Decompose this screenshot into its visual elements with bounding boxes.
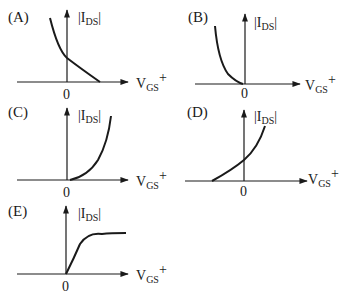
panel-a-label: (A) [8,9,29,26]
panel-e-y-label: |IDS| [78,206,101,223]
panel-b-label: (B) [188,9,208,26]
panel-d: (D) |IDS| VGS+ 0 [185,104,339,199]
panel-d-y-label: |IDS| [254,109,277,126]
panel-c-curve [70,116,111,180]
panel-d-origin-label: 0 [240,184,247,199]
panel-c-label: (C) [8,104,28,121]
panel-c-x-label: VGS+ [136,168,167,191]
panel-a-y-label: |IDS| [78,10,101,27]
panel-b-x-label: VGS+ [305,72,336,95]
panel-d-label: (D) [187,104,208,121]
panel-d-curve [212,126,265,181]
figure-canvas: (A) |IDS| VGS+ 0 (B) |IDS| VGS+ 0 (C) |I… [0,0,343,296]
panel-b: (B) |IDS| VGS+ 0 [188,9,336,101]
panel-e: (E) |IDS| VGS+ 0 [8,203,167,294]
panel-c: (C) |IDS| VGS+ 0 [8,104,167,200]
panel-d-x-label: VGS+ [308,166,339,189]
panel-a-curve [50,18,100,82]
panel-c-y-label: |IDS| [78,108,101,125]
panel-b-y-label: |IDS| [254,15,277,32]
panel-a-origin-label: 0 [63,87,70,102]
panel-e-origin-label: 0 [62,279,69,294]
panel-e-curve [66,233,126,274]
panel-e-label: (E) [8,203,27,220]
panel-a-x-label: VGS+ [136,70,167,93]
panel-b-origin-label: 0 [241,86,248,101]
panel-e-x-label: VGS+ [136,262,167,285]
panel-b-curve [215,26,243,84]
panel-a: (A) |IDS| VGS+ 0 [8,9,167,102]
panel-c-origin-label: 0 [63,185,70,200]
